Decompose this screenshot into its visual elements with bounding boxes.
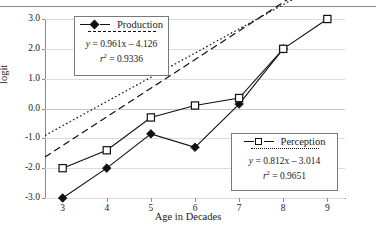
y-tick-label: 0.0 xyxy=(0,104,40,114)
legend-perception-key: Perception xyxy=(232,134,337,147)
x-tick-label: 6 xyxy=(183,203,207,213)
data-point-perception xyxy=(103,147,110,154)
y-tick-label: -1.0 xyxy=(0,133,40,143)
data-point-production xyxy=(58,194,67,203)
production-r2: r2 = 0.9336 xyxy=(75,50,168,65)
top-rule xyxy=(0,6,376,7)
dashed-trendline-icon xyxy=(88,31,156,37)
x-tick-mark xyxy=(151,198,152,202)
x-tick-mark xyxy=(327,198,328,202)
x-tick-mark xyxy=(283,198,284,202)
legend-perception[interactable]: Perception y = 0.812x – 3.014 r2 = 0.965… xyxy=(231,133,338,191)
filled-diamond-marker-icon xyxy=(80,20,110,29)
chart-figure: logit Age in Decades 3.02.01.00.0-1.0-2.… xyxy=(0,0,376,229)
legend-perception-label: Perception xyxy=(281,136,326,147)
y-tick-label: 1.0 xyxy=(0,74,40,84)
x-tick-mark xyxy=(107,198,108,202)
data-point-perception xyxy=(280,45,287,52)
y-tick-mark xyxy=(42,198,45,199)
x-tick-label: 3 xyxy=(51,203,75,213)
data-point-perception xyxy=(59,165,66,172)
y-tick-label: 3.0 xyxy=(0,14,40,24)
x-tick-label: 5 xyxy=(139,203,163,213)
data-point-perception xyxy=(236,94,243,101)
x-tick-mark xyxy=(239,198,240,202)
perception-r2: r2 = 0.9651 xyxy=(232,167,337,182)
x-tick-label: 7 xyxy=(227,203,251,213)
y-tick-label: 2.0 xyxy=(0,44,40,54)
x-tick-label: 4 xyxy=(95,203,119,213)
legend-production-key: Production xyxy=(75,17,168,30)
data-point-perception xyxy=(324,15,331,22)
x-tick-mark xyxy=(195,198,196,202)
production-equation: y = 0.961x – 4.126 xyxy=(75,38,168,50)
perception-equation: y = 0.812x – 3.014 xyxy=(232,155,337,167)
legend-production-label: Production xyxy=(117,19,163,30)
data-point-perception xyxy=(191,102,198,109)
data-point-perception xyxy=(147,114,154,121)
x-tick-label: 9 xyxy=(315,203,339,213)
open-square-marker-icon xyxy=(244,137,274,146)
x-tick-label: 8 xyxy=(271,203,295,213)
y-tick-label: -2.0 xyxy=(0,163,40,173)
y-tick-label: -3.0 xyxy=(0,193,40,203)
dotted-trendline-icon xyxy=(251,148,319,154)
legend-production[interactable]: Production y = 0.961x – 4.126 r2 = 0.933… xyxy=(74,16,169,76)
